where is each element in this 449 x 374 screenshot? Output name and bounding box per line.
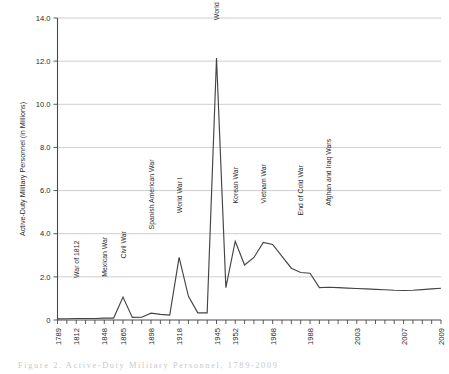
x-tick-label: 1918 — [175, 328, 184, 345]
figure-caption: Figure 2. Active-Duty Military Personnel… — [18, 361, 438, 374]
figure-container: 02.04.06.08.010.012.014.0178918121848186… — [0, 0, 449, 374]
chart-annotation-label: War of 1812 — [73, 240, 80, 277]
x-tick-label: 1865 — [119, 328, 128, 345]
y-tick-label: 10.0 — [36, 100, 51, 109]
x-tick-label: 1952 — [231, 328, 240, 345]
y-tick-label: 0 — [46, 316, 50, 325]
y-axis-title: Active-Duty Military Personnel (in Milli… — [18, 102, 27, 236]
chart-annotation-label: Vietnam War — [260, 163, 267, 203]
x-tick-label: 1898 — [147, 328, 156, 345]
chart-annotation-label: Civil War — [120, 231, 127, 259]
x-tick-label: 1988 — [306, 328, 315, 345]
chart-annotation-label: Spanish American War — [148, 159, 156, 230]
x-tick-label: 1812 — [72, 328, 81, 345]
chart-annotation-label: World War I — [176, 177, 183, 213]
y-tick-label: 8.0 — [40, 143, 51, 152]
x-tick-label: 2003 — [353, 328, 362, 345]
y-tick-label: 2.0 — [40, 273, 51, 282]
chart-annotation-label: Mexican War — [101, 236, 108, 277]
x-tick-label: 1789 — [54, 328, 63, 345]
x-tick-label: 1968 — [269, 328, 278, 345]
y-tick-label: 12.0 — [36, 57, 51, 66]
x-tick-label: 2009 — [437, 328, 446, 345]
chart-annotation-label: End of Cold War — [297, 164, 304, 215]
x-tick-label: 1848 — [100, 328, 109, 345]
y-tick-label: 6.0 — [40, 186, 51, 195]
y-tick-label: 14.0 — [36, 14, 51, 23]
line-chart: 02.04.06.08.010.012.014.0178918121848186… — [0, 0, 449, 374]
x-tick-label: 2007 — [400, 328, 409, 345]
data-series-line — [58, 58, 442, 319]
chart-annotation-label: Korean War — [232, 166, 239, 203]
chart-annotation-label: Afghan and Iraq Wars — [325, 138, 333, 205]
y-tick-label: 4.0 — [40, 229, 51, 238]
x-tick-label: 1945 — [213, 328, 222, 345]
chart-annotation-label: World War II — [213, 0, 220, 20]
